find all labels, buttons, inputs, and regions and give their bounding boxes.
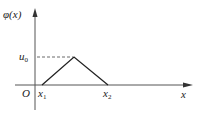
x-axis-label: x — [180, 88, 186, 100]
potential-diagram: φ(x) x O u0 x1 x2 — [0, 0, 203, 113]
x1-label: x1 — [37, 87, 47, 101]
x-axis-arrow-icon — [183, 83, 193, 88]
x2-label: x2 — [102, 87, 112, 101]
origin-label: O — [22, 87, 30, 99]
y-axis-label: φ(x) — [3, 8, 22, 21]
y-axis-arrow-icon — [33, 8, 38, 17]
u0-label: u0 — [19, 50, 29, 64]
potential-curve — [42, 57, 108, 85]
